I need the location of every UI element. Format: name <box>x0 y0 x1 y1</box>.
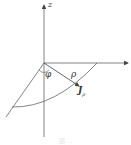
phi-label: φ <box>45 70 51 79</box>
cylindrical-coordinate-diagram <box>0 0 131 145</box>
z-axis-label: z <box>48 1 52 9</box>
rho-label: ρ <box>71 70 76 79</box>
current-density-label: Jρ <box>78 86 85 97</box>
y-axis <box>6 63 44 117</box>
j-subscript: ρ <box>82 91 85 97</box>
figure-caption: 图 … <box>0 136 131 145</box>
